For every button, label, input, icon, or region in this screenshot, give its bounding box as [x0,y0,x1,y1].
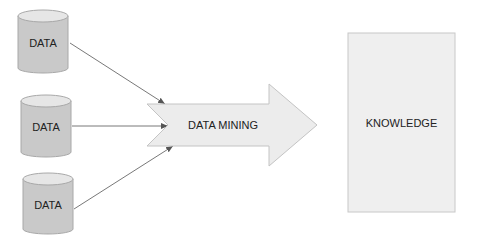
knowledge-label: KNOWLEDGE [348,117,455,129]
data-source-label-2: DATA [21,121,71,133]
data-mining-label: DATA MINING [168,119,278,131]
connector-arrow-1 [70,43,165,104]
data-source-label-3: DATA [23,199,73,211]
data-source-label-1: DATA [18,37,68,49]
connector-arrow-3 [74,146,173,209]
